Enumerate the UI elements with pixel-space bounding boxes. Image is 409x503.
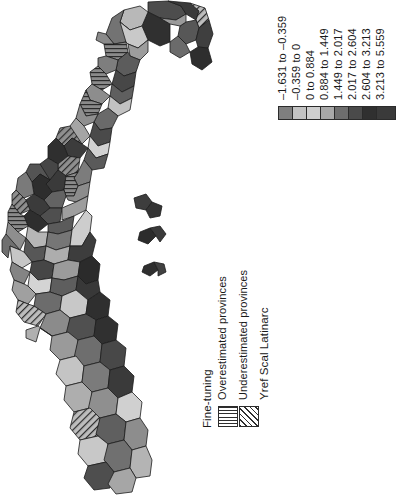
legend-title: Fine-tuning — [202, 369, 213, 428]
legend-pattern-label-underestimated: Underestimated provinces — [238, 270, 249, 400]
legend-class-label-5: 2.017 to 2.604 — [347, 28, 358, 100]
choropleth-map — [0, 0, 215, 503]
legend-class-label-4: 1.449 to 2.017 — [333, 28, 344, 100]
map-legend: Fine-tuning Overestimated provinces Unde… — [196, 8, 401, 498]
figure-canvas: Fine-tuning Overestimated provinces Unde… — [0, 0, 409, 503]
diagonal-hatch-icon — [239, 406, 259, 427]
legend-class-label-7: 3.213 to 5.559 — [375, 28, 386, 100]
legend-swatch-7 — [376, 106, 396, 120]
legend-class-label-6: 2.604 to 3.213 — [361, 28, 372, 100]
legend-class-label-2: 0 to 0.884 — [305, 50, 316, 100]
legend-class-label-0: –1.631 to –0.359 — [277, 16, 288, 100]
horizontal-lines-icon — [218, 406, 238, 427]
legend-class-label-3: 0.884 to 1.449 — [319, 28, 330, 100]
legend-ramp-title: Yref Scal Latinarc — [259, 307, 270, 400]
legend-class-label-1: –0.359 to 0 — [291, 44, 302, 100]
legend-pattern-label-overestimated: Overestimated provinces — [217, 276, 228, 400]
map-svg — [0, 0, 215, 503]
